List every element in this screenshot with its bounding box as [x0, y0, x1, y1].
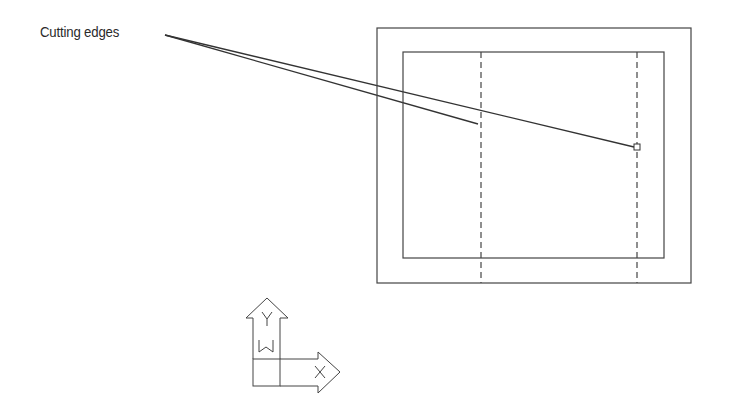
cad-drawing: [0, 0, 729, 419]
outer-rectangle[interactable]: [377, 28, 691, 283]
ucs-x-label-icon: [315, 366, 325, 378]
inner-rectangle[interactable]: [403, 52, 664, 258]
ucs-icon: [246, 298, 340, 393]
ucs-y-label-icon: [262, 312, 272, 326]
ucs-w-label-icon: [259, 340, 273, 352]
pickbox-cursor-icon: [634, 144, 640, 150]
drawing-canvas[interactable]: Cutting edges: [0, 0, 729, 419]
leader-line-1: [165, 35, 478, 124]
